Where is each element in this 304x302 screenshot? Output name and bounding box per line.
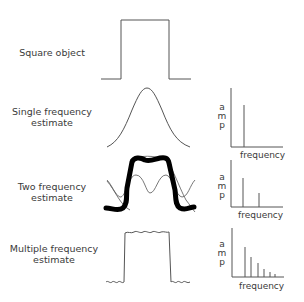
label-square-object: Square object — [2, 47, 102, 58]
spectrum-1-xlabel: frequency — [240, 150, 285, 160]
two-frequency-sum-wave — [106, 158, 194, 210]
single-frequency-wave — [107, 88, 190, 147]
spectrum-2 — [231, 160, 283, 207]
label-multiple-frequency: Multiple frequency estimate — [4, 243, 104, 265]
label-single-frequency: Single frequency estimate — [2, 106, 102, 128]
fundamental-wave — [107, 156, 195, 212]
harmonic-wave — [107, 175, 195, 197]
spectrum-3 — [232, 228, 284, 277]
label-two-frequency: Two frequency estimate — [2, 181, 102, 203]
square-wave — [101, 20, 191, 79]
multiple-frequency-wave — [106, 231, 190, 282]
spectrum-3-xlabel: frequency — [239, 281, 284, 291]
spectrum-3-ylabel: amp — [217, 240, 227, 267]
spectrum-1-ylabel: amp — [217, 103, 227, 130]
spectrum-1 — [231, 88, 283, 147]
spectrum-2-xlabel: frequency — [238, 210, 283, 220]
spectrum-2-ylabel: amp — [217, 173, 227, 200]
